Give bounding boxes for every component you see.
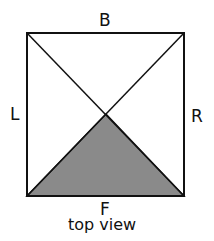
label-right: R bbox=[191, 108, 203, 125]
shaded-front-triangle bbox=[27, 114, 184, 196]
caption: top view bbox=[68, 217, 136, 233]
label-left: L bbox=[10, 106, 19, 123]
label-back: B bbox=[99, 12, 111, 29]
